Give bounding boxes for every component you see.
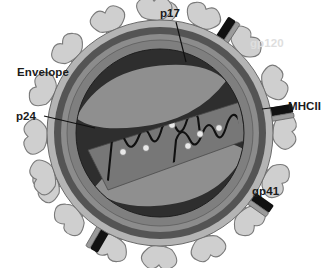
- enzyme-dot: [216, 125, 223, 132]
- label-p24: p24: [16, 110, 36, 122]
- label-p17: p17: [160, 7, 180, 19]
- label-mhcii: MHCII: [288, 100, 321, 112]
- label-gp120: gp120: [250, 37, 284, 49]
- hiv-virion-diagram: p17 gp120 Envelope p24 MHCII gp41: [0, 0, 330, 268]
- enzyme-dot: [185, 143, 192, 150]
- label-gp41: gp41: [252, 185, 279, 197]
- enzyme-dot: [143, 145, 150, 152]
- label-envelope: Envelope: [17, 66, 69, 78]
- virion-body: [47, 20, 273, 246]
- enzyme-dot: [120, 149, 127, 156]
- enzyme-dot: [197, 131, 204, 138]
